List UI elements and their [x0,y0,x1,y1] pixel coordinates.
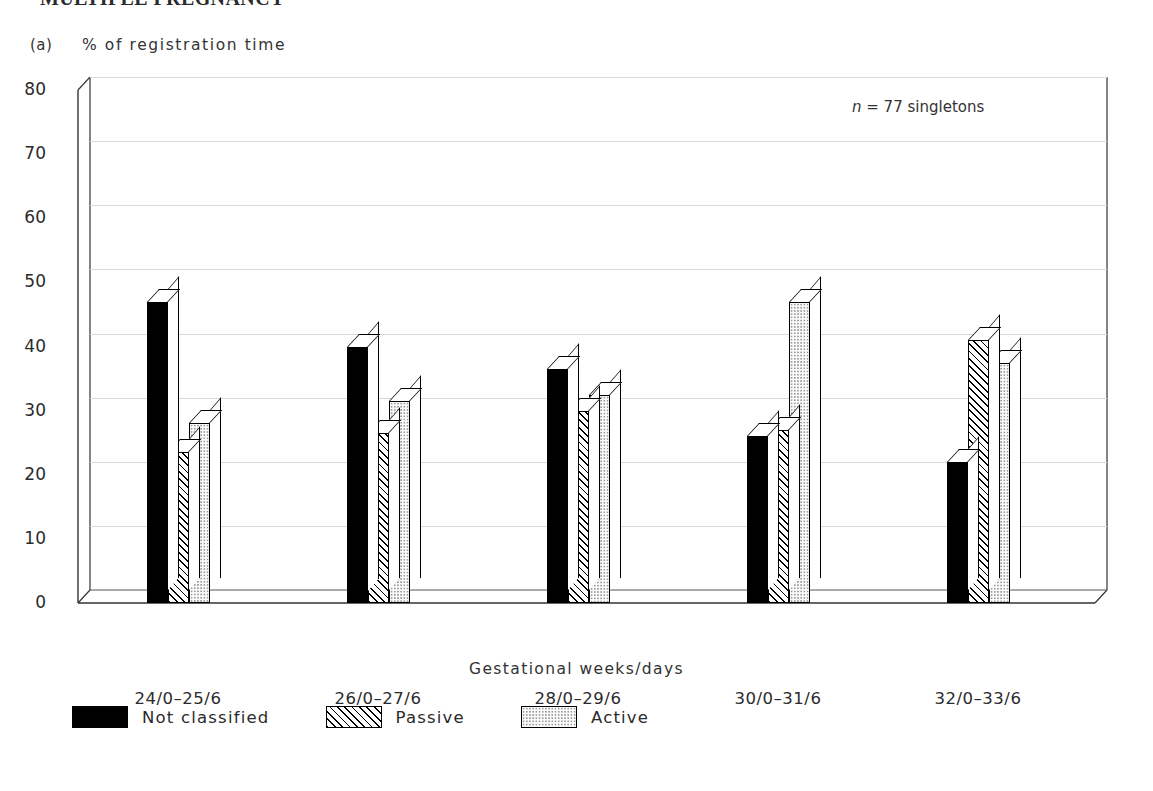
chart-plot-area: 01020304050607080 24/0–25/626/0–27/628/0… [66,77,1121,604]
legend-swatch-icon [521,706,577,728]
y-tick-50: 50 [0,271,46,291]
bar-side-face [189,427,200,590]
gridline-40 [90,334,1107,335]
x-tick-4: 30/0–31/6 [678,689,878,708]
chart-legend: Not classifiedPassiveActive [72,706,649,728]
bar-side-face [768,411,779,590]
x-axis-title: Gestational weeks/days [0,660,1153,678]
running-head: MULTIPLE PREGNANCY [40,0,285,10]
bar-front-face [547,369,568,603]
bar-not-classified-group-5 [947,462,968,603]
bar-side-face [589,385,600,590]
bar-front-face [747,436,768,603]
bar-side-face [368,321,379,590]
x-tick-5: 32/0–33/6 [878,689,1078,708]
legend-label: Not classified [142,708,270,727]
bar-side-face [168,276,179,590]
bar-not-classified-group-2 [347,347,368,604]
y-tick-60: 60 [0,207,46,227]
y-axis-title: % of registration time [82,36,286,54]
legend-item-not-classified: Not classified [72,706,326,728]
bar-side-face [568,343,579,590]
bar-side-face [989,314,1000,590]
bar-front-face [947,462,968,603]
gridline-80 [90,77,1107,78]
bar-side-face [1010,337,1021,590]
bar-side-face [389,407,400,590]
legend-swatch-icon [72,706,128,728]
panel-label: (a) [30,36,52,54]
gridline-60 [90,205,1107,206]
y-tick-20: 20 [0,464,46,484]
y-tick-80: 80 [0,79,46,99]
legend-label: Passive [396,708,465,727]
gridline-70 [90,141,1107,142]
legend-swatch-icon [326,706,382,728]
gridline-50 [90,269,1107,270]
bar-side-face [789,404,800,590]
legend-label: Active [591,708,649,727]
bar-side-face [410,375,421,590]
bar-side-face [210,398,221,590]
y-tick-70: 70 [0,143,46,163]
legend-item-passive: Passive [326,706,521,728]
bar-front-face [147,302,168,603]
bar-side-face [610,369,621,590]
bar-front-face [347,347,368,604]
y-tick-0: 0 [0,592,46,612]
bar-not-classified-group-4 [747,436,768,603]
legend-item-active: Active [521,706,649,728]
y-tick-40: 40 [0,336,46,356]
y-tick-10: 10 [0,528,46,548]
y-tick-30: 30 [0,400,46,420]
bar-not-classified-group-3 [547,369,568,603]
bar-side-face [810,276,821,590]
bar-not-classified-group-1 [147,302,168,603]
